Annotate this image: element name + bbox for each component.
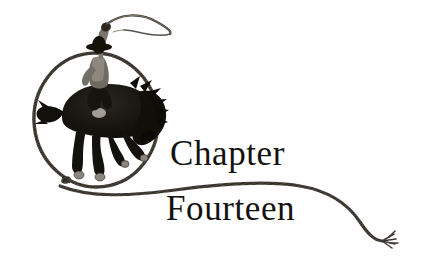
chapter-heading-page: Chapter Fourteen [0,0,433,271]
chapter-label: Chapter [170,136,285,171]
chapter-number-label: Fourteen [166,191,295,226]
